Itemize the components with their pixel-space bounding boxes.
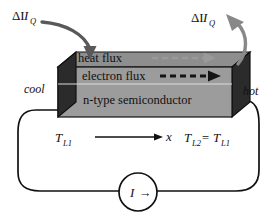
cool-side-label: cool	[24, 82, 45, 96]
temp-left-symbol: T	[55, 130, 63, 145]
delta-heat-left-symbol: I	[23, 8, 29, 23]
current-direction-arrow: →	[139, 186, 152, 200]
delta-heat-right-label: ΔI	[191, 10, 204, 25]
delta-heat-left-subscript: Q	[30, 16, 36, 26]
delta-heat-right-symbol: I	[202, 10, 208, 25]
delta-heat-right-subscript: Q	[209, 18, 215, 28]
arrow-right-icon	[95, 134, 163, 141]
current-label: I	[129, 185, 135, 200]
thermoelectric-diagram: I → heat flux electron flux	[0, 0, 277, 224]
axis-label: x	[165, 129, 172, 144]
electron-flux-label: electron flux	[82, 69, 146, 83]
temp-equals-sign: =	[202, 131, 209, 145]
current-source-icon[interactable]: I →	[119, 173, 157, 211]
figure-canvas: I → heat flux electron flux	[0, 0, 277, 224]
curved-arrow-down-icon	[42, 22, 97, 60]
wire-left-branch	[18, 110, 119, 191]
temp-left-subscript: L1	[62, 138, 72, 148]
temp-right2-symbol: T	[213, 130, 221, 145]
temp-right-symbol: T	[184, 130, 192, 145]
temp-right-subscript: L2	[191, 138, 202, 148]
delta-heat-left-label: ΔI	[12, 8, 25, 23]
heat-flux-label: heat flux	[78, 51, 123, 65]
temp-right2-subscript: L1	[220, 138, 230, 148]
material-label: n-type semiconductor	[83, 93, 192, 107]
hot-side-label: hot	[243, 84, 259, 98]
